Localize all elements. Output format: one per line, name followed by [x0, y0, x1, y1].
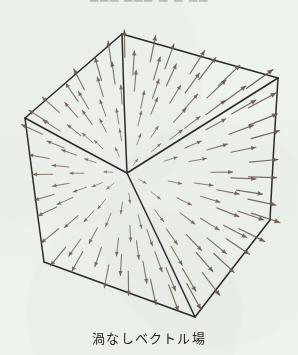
field-arrow — [84, 210, 94, 222]
figure-caption: 渦なしベクトル場 — [0, 328, 298, 347]
cube-edge — [25, 118, 44, 262]
field-arrow — [150, 36, 157, 62]
cube-edge — [122, 34, 278, 78]
field-arrow — [217, 208, 239, 217]
field-arrow — [201, 218, 220, 230]
field-arrow — [136, 241, 140, 260]
field-arrow — [138, 111, 142, 126]
field-arrow — [69, 239, 81, 256]
field-arrow — [134, 70, 138, 91]
field-arrow — [164, 156, 177, 161]
field-arrow — [154, 57, 162, 80]
field-arrow — [42, 97, 59, 112]
vector-field-figure — [0, 0, 298, 355]
field-arrow — [97, 77, 104, 97]
field-arrow — [155, 210, 164, 222]
field-arrow — [196, 253, 213, 272]
field-arrow — [106, 41, 111, 66]
field-arrow — [47, 141, 64, 148]
field-arrow — [167, 229, 178, 244]
field-arrow — [72, 252, 83, 272]
field-arrow — [173, 108, 186, 122]
field-arrow — [189, 157, 207, 162]
field-arrow — [129, 226, 133, 242]
field-arrow — [229, 125, 254, 135]
field-arrow — [115, 109, 119, 124]
field-arrow — [94, 247, 101, 267]
field-arrow — [94, 140, 103, 149]
field-arrow — [110, 62, 115, 84]
field-arrow — [115, 148, 119, 157]
field-arrow — [78, 92, 88, 109]
field-arrow — [147, 230, 153, 246]
field-arrow — [232, 100, 257, 114]
field-arrow — [41, 229, 58, 243]
field-arrow — [168, 181, 182, 185]
field-arrow — [167, 64, 177, 86]
field-arrow — [33, 172, 53, 176]
field-arrow — [143, 261, 148, 283]
field-arrow — [171, 247, 182, 266]
field-arrow — [166, 268, 176, 291]
field-arrow — [151, 192, 160, 199]
field-arrow — [118, 129, 122, 141]
field-arrow — [29, 153, 49, 158]
field-arrow — [106, 183, 114, 189]
vector-field-arrows — [21, 30, 280, 311]
field-arrow — [38, 207, 57, 216]
field-arrow — [115, 238, 119, 256]
field-arrow — [89, 228, 97, 244]
cube-edge — [44, 262, 195, 317]
field-arrow — [85, 158, 97, 162]
field-arrow — [73, 187, 86, 192]
field-arrow — [155, 252, 163, 272]
field-arrow — [214, 254, 234, 273]
field-arrow — [92, 183, 103, 188]
field-arrow — [99, 100, 106, 116]
field-arrow — [185, 141, 201, 148]
field-arrow — [139, 179, 147, 183]
field-arrow — [82, 133, 93, 143]
field-arrow — [170, 130, 183, 140]
field-arrow — [52, 164, 69, 168]
field-arrow — [152, 144, 161, 152]
cube-wireframe — [25, 34, 278, 317]
field-arrow — [141, 91, 146, 109]
field-arrow — [128, 193, 131, 203]
field-arrow — [66, 83, 79, 101]
field-arrow — [236, 190, 262, 196]
field-arrow — [105, 213, 111, 226]
field-arrow — [207, 80, 226, 98]
field-arrow — [251, 213, 280, 223]
field-arrow — [104, 170, 113, 173]
field-arrow — [126, 271, 131, 295]
field-arrow — [70, 171, 84, 175]
field-arrow — [50, 247, 65, 265]
field-arrow — [120, 202, 123, 214]
field-arrow — [217, 190, 240, 196]
field-arrow — [119, 85, 123, 104]
field-arrow — [118, 254, 122, 275]
cube-edge — [25, 34, 122, 118]
field-arrow — [251, 130, 280, 139]
field-arrow — [211, 170, 233, 174]
field-arrow — [137, 134, 141, 145]
field-arrow — [62, 149, 77, 155]
field-arrow — [183, 94, 197, 110]
field-arrow — [64, 216, 78, 228]
field-arrow — [202, 273, 220, 296]
field-arrow — [180, 213, 195, 224]
field-arrow — [186, 235, 201, 251]
field-arrow — [151, 126, 159, 138]
field-arrow — [100, 119, 107, 132]
field-arrow — [82, 110, 92, 124]
cube-edge — [25, 118, 127, 173]
field-arrow — [201, 196, 221, 203]
field-arrow — [231, 146, 256, 152]
field-arrow — [65, 103, 78, 118]
field-arrow — [98, 199, 106, 209]
field-arrow — [170, 85, 181, 103]
field-arrow — [152, 79, 159, 99]
field-arrow — [226, 239, 249, 255]
field-arrow — [35, 194, 54, 201]
